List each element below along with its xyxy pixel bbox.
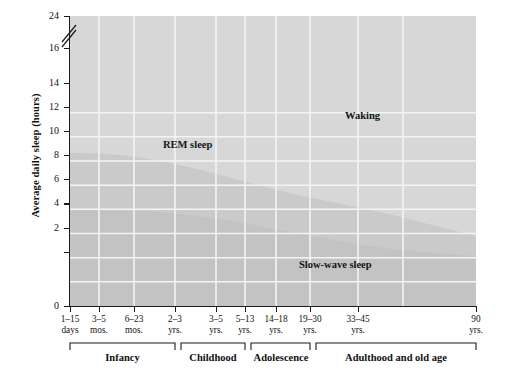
- y-tick-label-0: 0: [29, 301, 59, 311]
- y-tick-8: [64, 155, 70, 156]
- x-tick-label-8-top: 33–45: [323, 314, 393, 325]
- x-tick-5: [245, 306, 246, 312]
- x-tick-label-9-top: 90: [441, 314, 511, 325]
- region-label-rem-sleep: REM sleep: [163, 139, 212, 150]
- bracket-infancy: [70, 343, 175, 350]
- y-tick-10: [64, 131, 70, 132]
- x-tick-0: [70, 306, 71, 312]
- region-label-slow-wave-sleep: Slow-wave sleep: [299, 259, 372, 270]
- bracket-adolescence: [251, 343, 310, 350]
- y-axis-line: [69, 16, 70, 307]
- y-tick-6: [64, 179, 70, 180]
- y-tick-2: [64, 228, 70, 229]
- x-tick-label-8: 33–45 yrs.: [323, 314, 393, 337]
- x-tick-6: [276, 306, 277, 312]
- x-tick-8: [358, 306, 359, 312]
- y-tick-label-14: 14: [29, 78, 59, 88]
- y-tick-24: [64, 16, 70, 17]
- x-tick-label-8-bottom: yrs.: [323, 325, 393, 336]
- y-tick-label-2: 2: [29, 223, 59, 233]
- y-tick-label-8: 8: [29, 150, 59, 160]
- y-tick-0b: [64, 252, 70, 253]
- era-label-infancy: Infancy: [70, 352, 175, 363]
- y-tick-12: [64, 107, 70, 108]
- x-tick-label-9-bottom: yrs.: [441, 325, 511, 336]
- bracket-adulthood: [316, 343, 476, 350]
- y-tick-16: [64, 48, 70, 49]
- plot-area: REM sleep Waking Slow-wave sleep: [70, 16, 476, 306]
- era-label-adolescence: Adolescence: [246, 352, 316, 363]
- sleep-stages-chart-figure: Average daily sleep (hours): [0, 0, 520, 376]
- y-tick-label-6: 6: [29, 174, 59, 184]
- y-tick-4: [64, 203, 70, 204]
- x-tick-3: [175, 306, 176, 312]
- y-tick-14: [64, 83, 70, 84]
- y-tick-label-16: 16: [29, 43, 59, 53]
- y-tick-label-4: 4: [29, 198, 59, 208]
- x-tick-2: [134, 306, 135, 312]
- region-label-waking: Waking: [345, 110, 380, 121]
- x-tick-9: [476, 306, 477, 312]
- x-tick-7: [310, 306, 311, 312]
- x-axis-line: [69, 306, 477, 307]
- x-tick-label-9: 90 yrs.: [441, 314, 511, 337]
- era-label-childhood: Childhood: [181, 352, 245, 363]
- x-tick-1: [99, 306, 100, 312]
- x-tick-4: [216, 306, 217, 312]
- plot-bands-svg: [70, 16, 476, 306]
- bracket-childhood: [181, 343, 245, 350]
- y-tick-label-24: 24: [29, 11, 59, 21]
- era-label-adulthood: Adulthood and old age: [316, 352, 476, 363]
- y-axis-break-icon: [59, 22, 81, 48]
- y-tick-label-12: 12: [29, 102, 59, 112]
- y-tick-label-10: 10: [29, 126, 59, 136]
